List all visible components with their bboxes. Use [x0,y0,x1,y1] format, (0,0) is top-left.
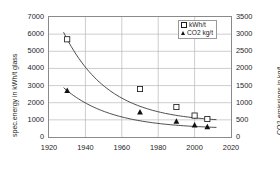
y-tick-right-3000: 3000 [236,30,262,37]
x-tick-1980: 1980 [143,144,173,151]
open-square-icon [181,22,187,28]
data-point-kwh [65,37,70,42]
y-tick-left-6000: 6000 [18,30,44,37]
y-tick-right-2000: 2000 [236,64,262,71]
x-tick-1920: 1920 [34,144,64,151]
y-tick-left-1000: 1000 [18,116,44,123]
data-point-co2 [192,122,198,127]
data-point-co2 [64,87,70,92]
data-point-co2 [174,118,180,123]
legend-item-co2: CO2 kg/t [181,30,213,37]
chart-legend: kWh/t CO2 kg/t [178,20,217,39]
legend-label-co2: CO2 kg/t [187,30,213,37]
y-tick-left-5000: 5000 [18,47,44,54]
data-point-co2 [137,109,143,114]
x-tick-1960: 1960 [107,144,137,151]
y-tick-left-2000: 2000 [18,99,44,106]
y-tick-right-1500: 1500 [236,82,262,89]
x-tick-2000: 2000 [180,144,210,151]
y-tick-left-4000: 4000 [18,64,44,71]
y-tick-left-0: 0 [18,133,44,140]
legend-label-kwh: kWh/t [189,22,206,29]
y-tick-right-3500: 3500 [236,13,262,20]
y-tick-left-7000: 7000 [18,13,44,20]
legend-item-kwh: kWh/t [181,22,213,29]
y-tick-right-500: 500 [236,116,262,123]
x-tick-1940: 1940 [70,144,100,151]
chart-container: spec.energy in kWh/t glass CO2-emissions… [0,0,280,169]
y-tick-right-0: 0 [236,133,262,140]
y-tick-right-1000: 1000 [236,99,262,106]
trend-curve-co2 [64,88,217,128]
data-point-kwh [192,113,197,118]
data-point-kwh [137,86,142,91]
y-axis-right-title: CO2-emissions in kg/t [275,67,280,135]
y-tick-left-3000: 3000 [18,82,44,89]
y-tick-right-2500: 2500 [236,47,262,54]
filled-triangle-icon [181,31,185,35]
trend-curve-kwh [64,32,217,119]
data-point-kwh [205,116,210,121]
x-tick-2020: 2020 [216,144,246,151]
data-point-kwh [174,104,179,109]
